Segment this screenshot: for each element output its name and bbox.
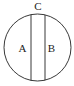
label-a: A — [19, 42, 27, 54]
label-c: C — [34, 0, 41, 12]
diagram-canvas: C A B — [0, 0, 74, 86]
label-b: B — [48, 42, 55, 54]
outer-circle — [4, 14, 71, 81]
